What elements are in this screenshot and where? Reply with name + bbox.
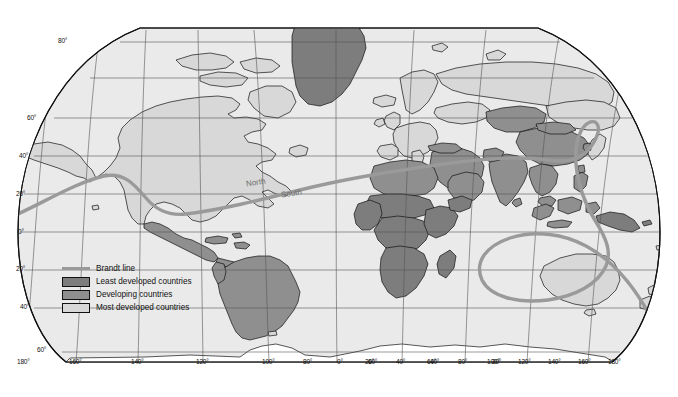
map-legend: Brandt line Least developed countries De… bbox=[62, 262, 192, 314]
region-taiwan bbox=[578, 165, 585, 173]
lat-label-60n: 60° bbox=[27, 114, 36, 121]
legend-item-most-developed: Most developed countries bbox=[62, 301, 192, 314]
legend-item-developing: Developing countries bbox=[62, 288, 192, 301]
lon-label-120e: 120° bbox=[518, 358, 531, 365]
lat-label-20s: 20° bbox=[16, 265, 25, 272]
lat-label-40n: 40° bbox=[19, 152, 28, 159]
lon-label-40e: 40° bbox=[396, 358, 405, 365]
lon-label-80e: 80° bbox=[458, 358, 467, 365]
lat-label-80n: 80° bbox=[58, 37, 67, 44]
lon-label-160e: 160° bbox=[578, 358, 591, 365]
lon-label-120w: 120° bbox=[196, 358, 209, 365]
lon-label-140w: 140° bbox=[131, 358, 144, 365]
lat-label-20n: 20° bbox=[16, 190, 25, 197]
lat-label-60s: 60° bbox=[37, 346, 46, 353]
lat-label-40s: 40° bbox=[20, 303, 29, 310]
region-falklands bbox=[268, 331, 277, 336]
legend-item-brandt-line: Brandt line bbox=[62, 262, 192, 275]
region-hawaii bbox=[92, 205, 99, 210]
legend-swatch-brandt-line bbox=[62, 267, 90, 270]
lon-label-80w: 80° bbox=[303, 358, 312, 365]
lon-label-180w: 180° bbox=[17, 358, 30, 365]
lat-label-0: 0° bbox=[18, 228, 24, 235]
lon-label-160w: 160° bbox=[69, 358, 82, 365]
legend-swatch-least-developed bbox=[62, 277, 90, 287]
legend-label-developing: Developing countries bbox=[96, 290, 172, 299]
lon-label-180e: 180° bbox=[608, 358, 621, 365]
lon-label-0: 0° bbox=[337, 358, 343, 365]
lon-label-100w: 100° bbox=[262, 358, 275, 365]
legend-swatch-most-developed bbox=[62, 303, 90, 313]
legend-label-brandt-line: Brandt line bbox=[96, 264, 135, 273]
legend-item-least-developed: Least developed countries bbox=[62, 275, 192, 288]
legend-swatch-developing bbox=[62, 290, 90, 300]
lon-label-60e: 60° bbox=[427, 358, 436, 365]
world-map-figure: 80° 60° 40° 20° 0° 20° 40° 60° 180° 160°… bbox=[0, 0, 678, 397]
world-map-svg bbox=[0, 0, 678, 397]
legend-label-least-developed: Least developed countries bbox=[96, 277, 192, 286]
legend-label-most-developed: Most developed countries bbox=[96, 303, 189, 312]
lon-label-100e: 100° bbox=[487, 358, 500, 365]
lon-label-20e: 20° bbox=[365, 358, 374, 365]
lon-label-140e: 140° bbox=[548, 358, 561, 365]
